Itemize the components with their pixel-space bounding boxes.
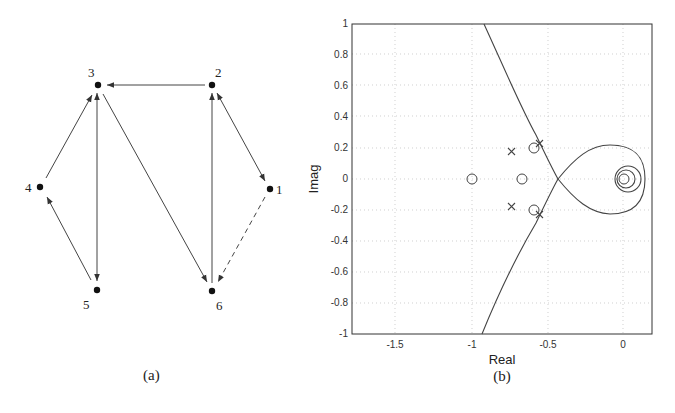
zero-marker	[529, 143, 539, 153]
zero-marker	[529, 205, 539, 215]
node-label-2: 2	[215, 65, 222, 80]
svg-text:-1: -1	[339, 328, 348, 339]
node-labels: 1 2 3 4 5 6	[25, 65, 283, 313]
svg-text:-0.2: -0.2	[331, 204, 349, 215]
svg-text:0.2: 0.2	[334, 142, 348, 153]
edge-5-4	[47, 197, 91, 280]
figure: 1 2 3 4 5 6 (a) 1	[0, 0, 675, 413]
x-axis-label: Real	[489, 352, 516, 367]
edge-4-3	[46, 95, 92, 178]
zero-marker	[517, 174, 527, 184]
node-label-1: 1	[276, 182, 283, 197]
svg-text:-0.6: -0.6	[331, 266, 349, 277]
node-5	[94, 287, 100, 293]
node-label-4: 4	[25, 180, 32, 195]
y-tick-labels: 1 0.8 0.6 0.4 0.2 0 -0.2 -0.4 -0.6 -0.8 …	[331, 18, 349, 339]
caption-a: (a)	[143, 367, 160, 384]
svg-text:-1.5: -1.5	[386, 339, 404, 350]
svg-text:-1: -1	[468, 339, 477, 350]
node-label-6: 6	[216, 298, 223, 313]
svg-text:0.8: 0.8	[334, 49, 348, 60]
svg-text:0.6: 0.6	[334, 80, 348, 91]
node-3	[95, 82, 101, 88]
svg-text:-0.4: -0.4	[331, 235, 349, 246]
node-1	[267, 186, 273, 192]
pole-marker	[508, 203, 515, 210]
x-tick-labels: -1.5 -1 -0.5 0	[386, 339, 626, 350]
node-label-5: 5	[83, 297, 90, 312]
node-label-3: 3	[88, 65, 95, 80]
caption-b: (b)	[493, 368, 511, 385]
svg-text:1: 1	[342, 18, 348, 29]
locus-branch-lower	[482, 145, 645, 334]
node-4	[37, 184, 43, 190]
graph-panel-a: 1 2 3 4 5 6 (a)	[25, 65, 283, 384]
plot-panel-b: 1 0.8 0.6 0.4 0.2 0 -0.2 -0.4 -0.6 -0.8 …	[306, 18, 652, 385]
svg-text:0: 0	[620, 339, 626, 350]
node-6	[209, 288, 215, 294]
node-2	[209, 82, 215, 88]
locus-branch-upper	[484, 24, 645, 214]
svg-text:-0.5: -0.5	[539, 339, 557, 350]
edge-1-6	[218, 197, 265, 282]
svg-text:0: 0	[342, 173, 348, 184]
edges	[46, 85, 265, 283]
y-axis-label: Imag	[306, 165, 321, 194]
edge-2-1	[217, 93, 265, 181]
svg-text:0.4: 0.4	[334, 111, 348, 122]
pole-marker	[508, 148, 515, 155]
svg-text:-0.8: -0.8	[331, 297, 349, 308]
edge-3-6	[103, 94, 207, 282]
